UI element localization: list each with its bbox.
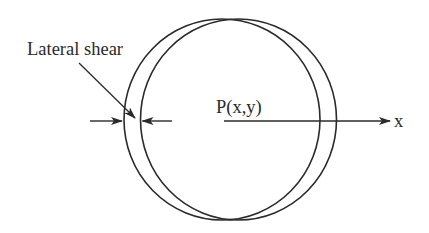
lateral-shear-label: Lateral shear <box>27 39 123 59</box>
point-label: P(x,y) <box>216 97 262 118</box>
sheared-wavefront-circle <box>141 19 337 220</box>
shear-leader-arrow <box>79 63 135 118</box>
x-axis-label: x <box>394 111 404 131</box>
lateral-shear-diagram: Lateral shear P(x,y) x <box>0 0 429 233</box>
original-wavefront-circle <box>124 19 320 220</box>
